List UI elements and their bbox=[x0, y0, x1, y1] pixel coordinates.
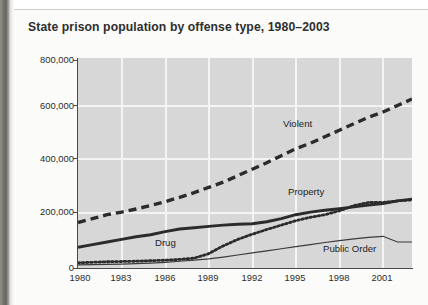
x-axis-line bbox=[77, 268, 413, 269]
x-tick-label-1995: 1995 bbox=[285, 272, 306, 283]
x-tick-label-1980: 1980 bbox=[70, 272, 91, 283]
x-tick-label-1992: 1992 bbox=[242, 272, 263, 283]
y-tick-label-400000: 400,000 bbox=[40, 153, 74, 164]
y-tick-label-800000: 800,000 bbox=[40, 54, 74, 65]
series-label-drug: Drug bbox=[155, 237, 176, 248]
y-tick-label-200000: 200,000 bbox=[40, 206, 74, 217]
plot-area bbox=[78, 58, 412, 268]
page-top-rule bbox=[12, 9, 428, 10]
series-lines bbox=[78, 58, 412, 268]
series-label-public-order: Public Order bbox=[323, 243, 376, 254]
y-tick-label-600000: 600,000 bbox=[40, 100, 74, 111]
y-axis-labels: 800,000 600,000 400,000 200,000 0 bbox=[0, 0, 74, 305]
x-tick-label-1983: 1983 bbox=[111, 272, 132, 283]
series-label-violent: Violent bbox=[283, 118, 312, 129]
x-tick-label-1998: 1998 bbox=[329, 272, 350, 283]
x-tick-label-1986: 1986 bbox=[155, 272, 176, 283]
figure-container: State prison population by offense type,… bbox=[0, 0, 428, 305]
x-tick-label-2001: 2001 bbox=[372, 272, 393, 283]
series-line-drug bbox=[78, 199, 412, 247]
x-tick-label-1989: 1989 bbox=[198, 272, 219, 283]
plot-inner bbox=[78, 58, 412, 268]
series-label-property: Property bbox=[288, 186, 324, 197]
y-axis-line bbox=[77, 58, 78, 269]
